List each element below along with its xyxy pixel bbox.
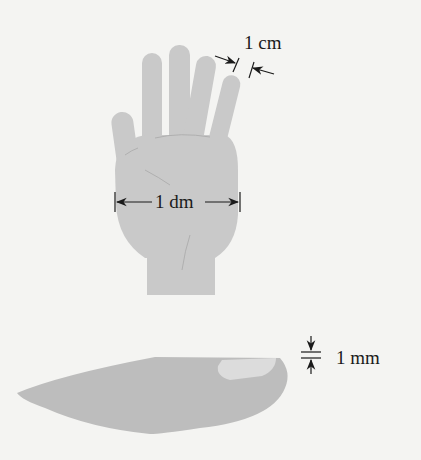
wrist [147,245,215,295]
nail-thickness-dimension [301,336,321,374]
nail-thickness-label: 1 mm [336,348,380,367]
hand-width-label: 1 dm [155,192,194,211]
fingertip-illustration [17,357,288,434]
finger-width-dimension [215,56,274,78]
diagram-canvas [0,0,421,460]
hand-illustration [110,45,242,295]
finger-width-tick-left [233,58,239,72]
finger-width-arrow-right [253,68,274,74]
finger-width-tick-right [249,62,254,78]
finger-width-arrow-left [215,56,235,63]
finger-width-label: 1 cm [244,33,281,52]
index-finger [142,53,162,148]
